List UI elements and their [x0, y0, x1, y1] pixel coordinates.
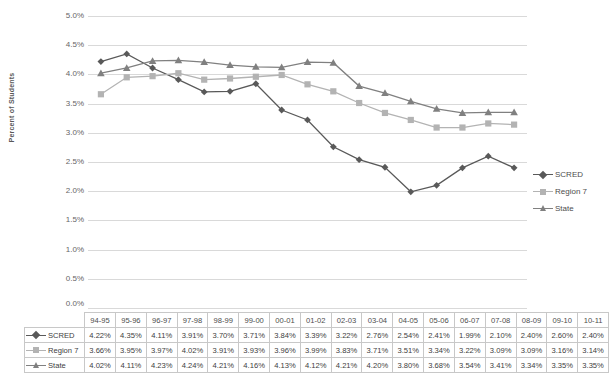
table-cell: 4.22% — [85, 328, 116, 343]
table-cell: 3.68% — [424, 358, 455, 373]
table-cell: 4.23% — [146, 358, 177, 373]
table-body: SCRED4.22%4.35%4.11%3.91%3.70%3.71%3.84%… — [25, 328, 609, 373]
table-cell: 2.40% — [578, 328, 609, 343]
y-axis-zero-label: 0.0% — [40, 299, 84, 308]
table-row: SCRED4.22%4.35%4.11%3.91%3.70%3.71%3.84%… — [25, 328, 609, 343]
y-axis-tick-label: 2.0% — [42, 187, 84, 195]
table-row: Region 73.66%3.95%3.97%4.02%3.91%3.93%3.… — [25, 343, 609, 358]
table-cell: 3.70% — [208, 328, 239, 343]
table-row-header: State — [25, 358, 85, 373]
table-cell: 4.11% — [146, 328, 177, 343]
legend-label: State — [553, 204, 574, 213]
legend-label: Region 7 — [553, 187, 587, 196]
table-cell: 4.24% — [177, 358, 208, 373]
table-cell: 4.02% — [85, 358, 116, 373]
table-cell: 3.80% — [393, 358, 424, 373]
table-cell: 3.16% — [547, 343, 578, 358]
table-cell: 1.99% — [454, 328, 485, 343]
table-column-header: 00-01 — [270, 313, 301, 328]
legend-swatch-icon — [533, 203, 553, 214]
table-cell: 4.16% — [239, 358, 270, 373]
table-cell: 3.91% — [177, 328, 208, 343]
table-column-header: 06-07 — [454, 313, 485, 328]
row-swatch-icon — [26, 360, 46, 371]
table-column-header: 08-09 — [516, 313, 547, 328]
data-point-marker — [485, 120, 491, 126]
data-point-marker — [382, 110, 388, 116]
y-axis-tick-label: 1.5% — [42, 216, 84, 224]
table-column-header: 94-95 — [85, 313, 116, 328]
plot-area — [88, 16, 527, 308]
y-axis-tick-label: 3.0% — [42, 129, 84, 137]
data-point-marker — [201, 77, 207, 83]
table-corner-cell — [25, 313, 85, 328]
chart-legend: SCREDRegion 7State — [533, 166, 605, 217]
y-axis-tick-label: 0.5% — [42, 275, 84, 283]
y-axis-tick-label: 3.5% — [42, 100, 84, 108]
data-point-marker — [511, 122, 517, 128]
data-point-marker — [511, 164, 518, 171]
table-cell: 3.22% — [454, 343, 485, 358]
data-point-marker — [149, 65, 156, 72]
table-header-row: 94-9595-9696-9797-9898-9999-0000-0101-02… — [25, 313, 609, 328]
table-cell: 2.60% — [547, 328, 578, 343]
table-column-header: 03-04 — [362, 313, 393, 328]
table-cell: 3.71% — [362, 343, 393, 358]
table-column-header: 97-98 — [177, 313, 208, 328]
y-axis-title: Percent of Students — [8, 33, 15, 183]
legend-swatch-icon — [533, 169, 553, 180]
table-cell: 2.40% — [516, 328, 547, 343]
table-cell: 3.99% — [300, 343, 331, 358]
table-cell: 3.39% — [300, 328, 331, 343]
data-point-marker — [175, 70, 181, 76]
y-axis-tick-labels: 5.0%4.5%4.0%3.5%3.0%2.5%2.0%1.5%1.0%0.5% — [40, 16, 84, 308]
table-cell: 3.14% — [578, 343, 609, 358]
table-cell: 2.41% — [424, 328, 455, 343]
data-point-marker — [227, 75, 233, 81]
data-point-marker — [279, 72, 285, 78]
table-cell: 4.21% — [208, 358, 239, 373]
data-point-marker — [98, 91, 104, 97]
table-cell: 4.35% — [115, 328, 146, 343]
data-point-marker — [356, 100, 362, 106]
table-column-header: 02-03 — [331, 313, 362, 328]
row-swatch-icon — [26, 330, 46, 341]
table-cell: 3.97% — [146, 343, 177, 358]
legend-item-state[interactable]: State — [533, 200, 605, 217]
table-cell: 3.84% — [270, 328, 301, 343]
data-point-marker — [304, 81, 310, 87]
legend-item-scred[interactable]: SCRED — [533, 166, 605, 183]
table-cell: 3.71% — [239, 328, 270, 343]
legend-item-region-7[interactable]: Region 7 — [533, 183, 605, 200]
table-column-header: 09-10 — [547, 313, 578, 328]
table-cell: 2.10% — [485, 328, 516, 343]
table-column-header: 98-99 — [208, 313, 239, 328]
data-point-marker — [485, 153, 492, 160]
data-point-marker — [124, 74, 130, 80]
table-column-header: 96-97 — [146, 313, 177, 328]
data-point-marker — [253, 74, 259, 80]
legend-label: SCRED — [553, 170, 583, 179]
y-axis-tick-label: 4.0% — [42, 70, 84, 78]
table-row-label: SCRED — [46, 331, 75, 340]
table-cell: 4.12% — [300, 358, 331, 373]
data-point-marker — [356, 156, 363, 163]
table-cell: 3.93% — [239, 343, 270, 358]
table-column-header: 04-05 — [393, 313, 424, 328]
table-cell: 4.20% — [362, 358, 393, 373]
table-cell: 4.02% — [177, 343, 208, 358]
table-cell: 3.41% — [485, 358, 516, 373]
table-cell: 4.21% — [331, 358, 362, 373]
table-row-label: State — [46, 361, 66, 370]
table-column-header: 07-08 — [485, 313, 516, 328]
table-row-header: SCRED — [25, 328, 85, 343]
data-point-marker — [149, 73, 155, 79]
legend-swatch-icon — [533, 186, 553, 197]
table-column-header: 01-02 — [300, 313, 331, 328]
table-column-header: 10-11 — [578, 313, 609, 328]
table-cell: 3.22% — [331, 328, 362, 343]
table-cell: 3.35% — [547, 358, 578, 373]
table-cell: 3.83% — [331, 343, 362, 358]
table-cell: 3.95% — [115, 343, 146, 358]
y-axis-tick-label: 1.0% — [42, 246, 84, 254]
